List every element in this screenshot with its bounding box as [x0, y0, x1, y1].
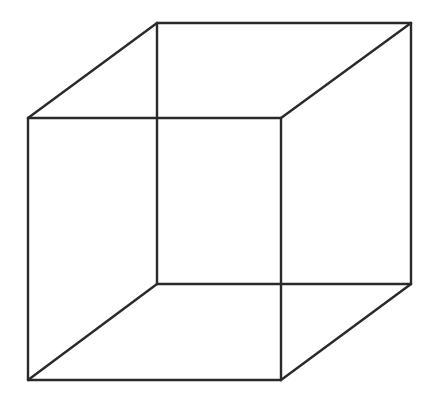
top-left-connector: [28, 23, 157, 118]
top-right-connector: [281, 23, 411, 118]
front-face: [28, 118, 281, 380]
back-face: [157, 23, 411, 284]
necker-cube-diagram: [0, 0, 434, 410]
bottom-right-connector: [281, 284, 411, 380]
bottom-left-connector: [28, 284, 157, 380]
connecting-edges: [28, 23, 411, 380]
